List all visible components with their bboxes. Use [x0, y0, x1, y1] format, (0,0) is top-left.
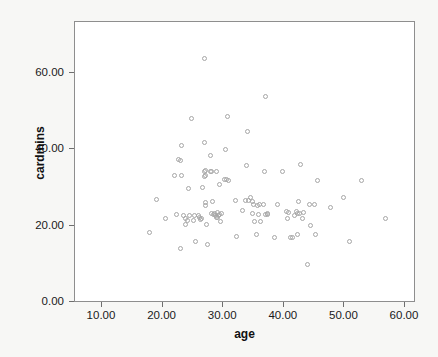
x-tick-mark [283, 302, 284, 307]
x-tick-mark [404, 302, 405, 307]
y-tick-mark [69, 72, 74, 73]
y-axis-title: cardmins [33, 108, 47, 198]
x-tick-label: 60.00 [374, 309, 434, 321]
x-tick-label: 10.00 [71, 309, 131, 321]
y-tick-mark [69, 225, 74, 226]
x-tick-mark [101, 302, 102, 307]
y-tick-mark [69, 301, 74, 302]
x-tick-label: 40.00 [253, 309, 313, 321]
y-tick-label: 20.00 [18, 219, 64, 231]
plot-area [74, 21, 415, 302]
x-tick-label: 30.00 [192, 309, 252, 321]
x-tick-mark [343, 302, 344, 307]
x-tick-mark [162, 302, 163, 307]
x-tick-label: 20.00 [132, 309, 192, 321]
y-tick-label: 0.00 [18, 295, 64, 307]
x-tick-mark [222, 302, 223, 307]
y-tick-mark [69, 148, 74, 149]
scatter-plot-figure: 0.0020.0040.0060.00 10.0020.0030.0040.00… [0, 0, 438, 357]
x-axis-title: age [74, 327, 415, 341]
x-tick-label: 50.00 [313, 309, 373, 321]
y-tick-label: 60.00 [18, 66, 64, 78]
